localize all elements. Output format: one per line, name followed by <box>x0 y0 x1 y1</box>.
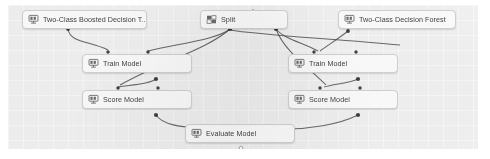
train-model-icon <box>294 58 305 69</box>
model-algorithm-icon <box>344 14 355 25</box>
node-score-model-right[interactable]: Score Model <box>288 90 398 109</box>
port-ring[interactable] <box>239 146 243 149</box>
node-train-model-right[interactable]: Train Model <box>288 54 398 73</box>
node-label: Split <box>221 16 235 23</box>
node-label: Two-Class Boosted Decision T.. <box>43 16 145 23</box>
port-dot[interactable] <box>346 29 350 33</box>
edge-split-to-train-left <box>148 29 230 51</box>
node-two-class-decision-forest[interactable]: Two-Class Decision Forest <box>338 10 456 29</box>
node-two-class-boosted-decision-tree[interactable]: Two-Class Boosted Decision T.. <box>22 10 147 29</box>
pipeline-screenshot: Two-Class Boosted Decision T.. Split Two… <box>0 0 490 159</box>
node-label: Score Model <box>309 96 350 103</box>
model-algorithm-icon <box>28 14 39 25</box>
node-score-model-left[interactable]: Score Model <box>82 90 192 109</box>
node-evaluate-model[interactable]: Evaluate Model <box>185 124 295 143</box>
edge-forest-to-train-right <box>320 31 348 51</box>
port-dot[interactable] <box>154 113 158 117</box>
split-data-icon <box>206 14 217 25</box>
node-split[interactable]: Split <box>200 10 288 29</box>
node-label: Train Model <box>103 60 141 67</box>
port-dot[interactable] <box>356 113 360 117</box>
evaluate-model-icon <box>191 128 202 139</box>
node-label: Two-Class Decision Forest <box>359 16 446 23</box>
port-dot[interactable] <box>356 77 360 81</box>
score-model-icon <box>294 94 305 105</box>
edge-train-right-to-score-right <box>324 79 358 87</box>
node-label: Train Model <box>309 60 347 67</box>
score-model-icon <box>88 94 99 105</box>
node-label: Evaluate Model <box>206 130 256 137</box>
node-label: Score Model <box>103 96 144 103</box>
edge-split-to-train-right <box>276 29 318 51</box>
node-train-model-left[interactable]: Train Model <box>82 54 192 73</box>
edge-score-right-to-evaluate <box>286 115 358 129</box>
port-dot[interactable] <box>154 77 158 81</box>
train-model-icon <box>88 58 99 69</box>
pipeline-canvas[interactable]: Two-Class Boosted Decision T.. Split Two… <box>8 5 478 149</box>
edge-boosted-to-train-left <box>68 29 108 50</box>
edge-split-sweep <box>230 30 400 45</box>
